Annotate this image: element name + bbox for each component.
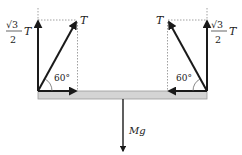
left-angle-label: 60° <box>54 73 70 83</box>
left-vertical-symbol: T <box>24 25 33 38</box>
weight-label: Mg <box>128 125 146 136</box>
right-vertical-symbol: T <box>229 25 238 38</box>
right-angle-label: 60° <box>176 73 192 83</box>
right-vertical-denominator: 2 <box>215 34 221 45</box>
right-angle-arc <box>193 79 200 91</box>
free-body-diagram: T √3 2 T 60° T √3 2 T 60° Mg <box>0 0 242 155</box>
right-vertical-numerator: √3 <box>211 19 223 30</box>
left-vertical-numerator: √3 <box>6 19 18 30</box>
left-tension-label: T <box>80 14 89 27</box>
right-tension-label: T <box>156 14 165 27</box>
beam <box>38 91 207 99</box>
left-vertical-denominator: 2 <box>10 34 16 45</box>
left-angle-arc <box>45 79 52 91</box>
